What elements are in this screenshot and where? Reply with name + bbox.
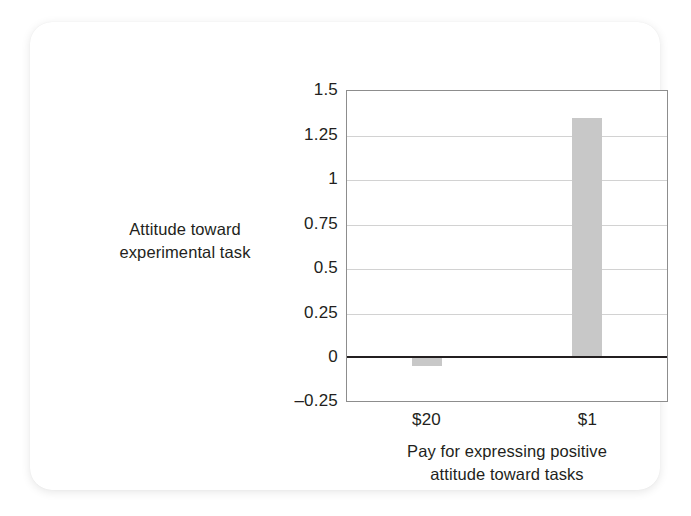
x-tick-label-20-dollars: $20 [367,410,487,430]
gridline-1-25 [347,136,667,137]
y-tick-label-0: 0 [218,347,338,367]
x-axis-title-line-2: attitude toward tasks [346,463,668,486]
x-axis-tick-labels: $20 $1 [346,410,668,436]
y-tick-label-1-25: 1.25 [218,125,338,145]
bar-1-dollar[interactable] [572,118,602,357]
y-tick-label-0-5: 0.5 [218,258,338,278]
y-tick-label-0-25: 0.25 [218,303,338,323]
gridline-0-5 [347,269,667,270]
zero-line [347,356,667,359]
x-axis-title-line-1: Pay for expressing positive [346,440,668,463]
gridline-1 [347,180,667,181]
figure-card: Attitude toward experimental task 1.5 1.… [30,22,660,490]
y-axis-tick-labels: 1.5 1.25 1 0.75 0.5 0.25 0 –0.25 [216,90,338,402]
y-tick-label-neg-0-25: –0.25 [218,391,338,411]
y-tick-label-1-5: 1.5 [218,80,338,100]
y-tick-label-1: 1 [218,169,338,189]
x-tick-label-1-dollar: $1 [528,410,648,430]
y-tick-label-0-75: 0.75 [218,214,338,234]
gridline-0-25 [347,314,667,315]
plot-area [346,90,668,402]
x-axis-title: Pay for expressing positive attitude tow… [346,440,668,486]
gridline-0-75 [347,225,667,226]
